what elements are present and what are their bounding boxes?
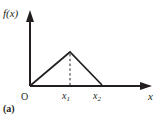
- origin-label: O: [21, 92, 28, 102]
- x-axis-arrowhead-icon: [140, 82, 152, 90]
- plot-area: [0, 0, 163, 120]
- tick-label-x2: x2: [93, 91, 101, 101]
- tick-label-x1-subscript: 1: [66, 95, 70, 103]
- tick-label-x1: x1: [62, 91, 70, 101]
- y-axis-arrowhead-icon: [26, 10, 34, 22]
- figure-container: f(x) O x x1 x2 (a): [0, 0, 163, 120]
- y-axis: [26, 10, 34, 86]
- triangle-curve-path: [31, 52, 102, 85]
- figure-caption: (a): [3, 104, 15, 114]
- tick-label-x2-subscript: 2: [97, 95, 101, 103]
- x-axis-label: x: [148, 91, 153, 102]
- density-curve: [31, 52, 102, 85]
- y-axis-label: f(x): [3, 8, 18, 19]
- x-axis: [30, 82, 152, 90]
